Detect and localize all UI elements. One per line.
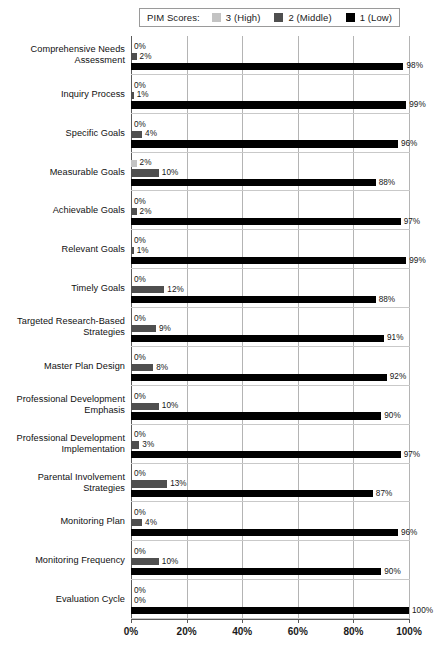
bar-high-value: 0% <box>134 353 146 362</box>
bar-row: Professional DevelopmentEmphasis0%10%90% <box>0 386 447 425</box>
legend-entry-middle: 2 (Middle) <box>274 12 331 23</box>
bar-high-value: 0% <box>134 120 146 129</box>
category-label: Inquiry Process <box>0 89 125 100</box>
category-label: Professional DevelopmentImplementation <box>0 433 125 455</box>
category-label: Monitoring Frequency <box>0 555 125 566</box>
bar-low-value: 96% <box>401 139 418 148</box>
category-label: Master Plan Design <box>0 361 125 372</box>
category-label-line: Measurable Goals <box>0 167 125 178</box>
row-separator <box>131 618 410 619</box>
legend-label-high: 3 (High) <box>226 12 261 23</box>
category-label-line: Implementation <box>0 444 125 455</box>
bar-middle <box>131 403 159 410</box>
category-label-line: Specific Goals <box>0 128 125 139</box>
category-label: Monitoring Plan <box>0 516 125 527</box>
bar-middle <box>131 286 164 293</box>
bar-low <box>131 607 409 614</box>
bar-row: Monitoring Frequency0%10%90% <box>0 541 447 580</box>
x-tick-mark-4 <box>353 619 354 623</box>
category-label-line: Emphasis <box>0 405 125 416</box>
category-label-line: Targeted Research-Based <box>0 316 125 327</box>
bar-low <box>131 296 376 303</box>
bar-middle-value: 13% <box>170 479 187 488</box>
bar-middle-value: 12% <box>167 285 184 294</box>
legend-box: PIM Scores: 3 (High) 2 (Middle) 1 (Low) <box>139 8 400 27</box>
bar-middle-value: 2% <box>140 52 152 61</box>
x-tick-mark-3 <box>298 619 299 623</box>
bar-low <box>131 335 384 342</box>
bar-high-value: 0% <box>134 42 146 51</box>
x-tick-label-1: 20% <box>177 626 197 637</box>
bar-high-value: 0% <box>134 236 146 245</box>
bar-middle-value: 8% <box>156 363 168 372</box>
bar-middle <box>131 325 156 332</box>
bar-middle-value: 4% <box>145 129 157 138</box>
bar-middle-value: 9% <box>159 324 171 333</box>
bar-low-value: 97% <box>404 450 421 459</box>
category-label: Parental InvolvementStrategies <box>0 472 125 494</box>
bar-middle-value: 2% <box>140 207 152 216</box>
category-label: Measurable Goals <box>0 167 125 178</box>
bar-middle <box>131 364 153 371</box>
category-label: Specific Goals <box>0 128 125 139</box>
bar-high-value: 2% <box>140 158 152 167</box>
legend-title: PIM Scores: <box>147 12 200 23</box>
x-tick-label-3: 60% <box>288 626 308 637</box>
bar-high-value: 0% <box>134 392 146 401</box>
legend-swatch-middle <box>274 13 283 22</box>
bar-middle-value: 10% <box>162 557 179 566</box>
bar-low-value: 98% <box>406 61 423 70</box>
bar-low <box>131 63 403 70</box>
bar-row: Inquiry Process0%1%99% <box>0 75 447 114</box>
bar-row: Parental InvolvementStrategies0%13%87% <box>0 464 447 503</box>
category-label-line: Parental Involvement <box>0 472 125 483</box>
bar-high-value: 0% <box>134 314 146 323</box>
bar-high-value: 0% <box>134 81 146 90</box>
bar-low <box>131 451 401 458</box>
legend-label-low: 1 (Low) <box>360 12 392 23</box>
bar-row: Achievable Goals0%2%97% <box>0 191 447 230</box>
category-label-line: Monitoring Frequency <box>0 555 125 566</box>
bar-high-value: 0% <box>134 586 146 595</box>
bar-row: Timely Goals0%12%88% <box>0 269 447 308</box>
x-tick-mark-5 <box>409 619 410 623</box>
bar-low <box>131 374 387 381</box>
x-tick-mark-1 <box>187 619 188 623</box>
category-label-line: Assessment <box>0 55 125 66</box>
category-label: Timely Goals <box>0 283 125 294</box>
bar-row: Master Plan Design0%8%92% <box>0 347 447 386</box>
bar-row: Measurable Goals2%10%88% <box>0 153 447 192</box>
bar-high-value: 0% <box>134 547 146 556</box>
bar-middle-value: 10% <box>162 401 179 410</box>
bar-middle <box>131 519 142 526</box>
category-label-line: Achievable Goals <box>0 205 125 216</box>
legend-entry-low: 1 (Low) <box>346 12 392 23</box>
bar-middle-value: 3% <box>142 440 154 449</box>
bar-low <box>131 218 401 225</box>
category-label-line: Evaluation Cycle <box>0 594 125 605</box>
legend-swatch-high <box>212 13 221 22</box>
category-label: Comprehensive NeedsAssessment <box>0 44 125 66</box>
bar-middle <box>131 131 142 138</box>
category-label-line: Strategies <box>0 483 125 494</box>
bar-low <box>131 179 376 186</box>
bar-middle <box>131 441 139 448</box>
bar-low-value: 88% <box>379 178 396 187</box>
category-label: Achievable Goals <box>0 205 125 216</box>
bar-low <box>131 412 381 419</box>
x-tick-label-5: 100% <box>396 626 422 637</box>
bar-middle <box>131 480 167 487</box>
bar-low-value: 90% <box>384 411 401 420</box>
x-tick-label-2: 40% <box>232 626 252 637</box>
bar-row: Monitoring Plan0%4%96% <box>0 502 447 541</box>
bar-low <box>131 490 373 497</box>
category-label-line: Timely Goals <box>0 283 125 294</box>
category-label-line: Master Plan Design <box>0 361 125 372</box>
bar-row: Relevant Goals0%1%99% <box>0 230 447 269</box>
category-label-line: Strategies <box>0 327 125 338</box>
bar-middle-value: 10% <box>162 168 179 177</box>
bar-high-value: 0% <box>134 469 146 478</box>
bar-high-value: 0% <box>134 197 146 206</box>
bar-low-value: 91% <box>387 333 404 342</box>
bar-low <box>131 257 406 264</box>
